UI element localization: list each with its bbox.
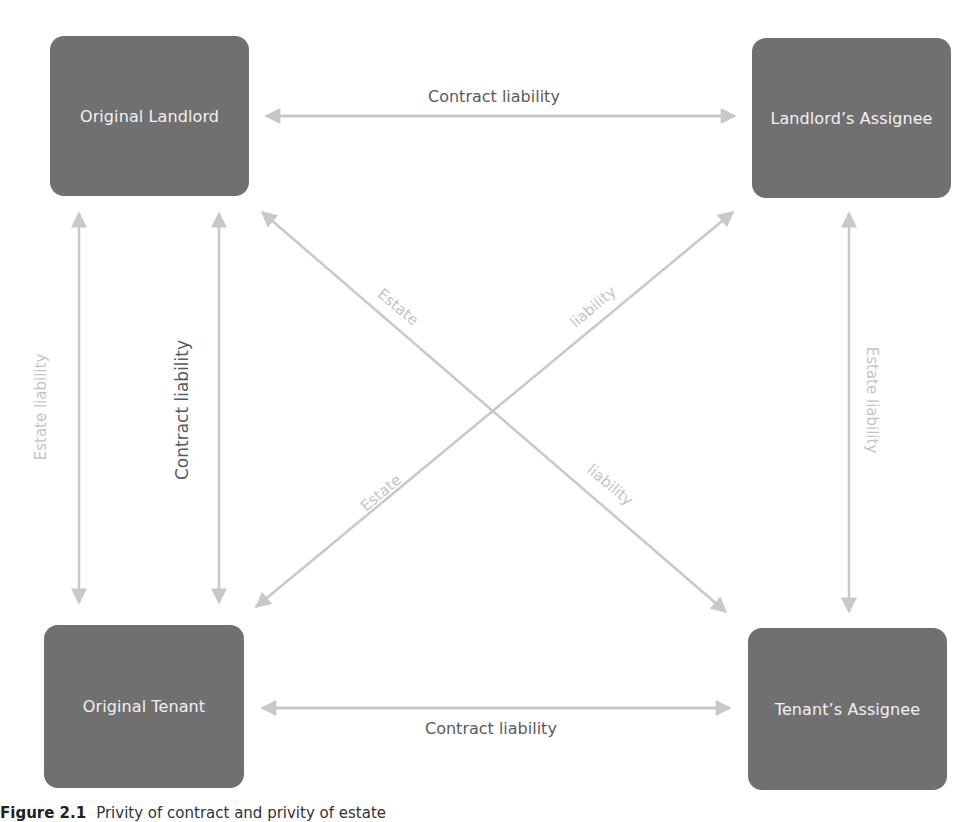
node-landlords-assignee: Landlord’s Assignee: [752, 38, 951, 198]
label-left-contract-liability: Contract liability: [172, 340, 192, 480]
node-original-tenant: Original Tenant: [44, 625, 244, 788]
figure-caption: Figure 2.1Privity of contract and privit…: [0, 804, 386, 822]
node-label: Original Tenant: [83, 697, 205, 716]
figure-caption-text: Privity of contract and privity of estat…: [96, 804, 386, 822]
node-label: Original Landlord: [80, 107, 219, 126]
label-right-estate-liability: Estate liability: [863, 347, 881, 454]
arrow-diagonal-tenant-to-landlords-assignee: [256, 212, 733, 607]
figure-number: Figure 2.1: [0, 804, 86, 822]
label-top-contract-liability: Contract liability: [428, 87, 560, 106]
label-bottom-contract-liability: Contract liability: [425, 719, 557, 738]
node-label: Tenant’s Assignee: [775, 700, 921, 719]
label-left-estate-liability: Estate liability: [32, 354, 50, 461]
node-label: Landlord’s Assignee: [770, 109, 932, 128]
node-tenants-assignee: Tenant’s Assignee: [748, 628, 947, 790]
node-original-landlord: Original Landlord: [50, 36, 249, 196]
arrow-diagonal-landlord-to-tenants-assignee: [262, 212, 726, 612]
